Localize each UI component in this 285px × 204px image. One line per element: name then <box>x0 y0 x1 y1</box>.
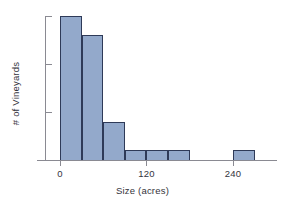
y-axis-tick <box>45 64 52 65</box>
x-axis-tick-label: 240 <box>213 169 253 179</box>
histogram-bar <box>103 122 125 160</box>
x-axis-tick-label: 120 <box>126 169 166 179</box>
histogram-bar <box>82 35 104 160</box>
x-axis-tick <box>60 160 61 166</box>
x-axis-title: Size (acres) <box>0 185 285 196</box>
y-axis-title: # of Vineyards <box>10 48 21 140</box>
y-axis-tick <box>45 112 52 113</box>
histogram-bar <box>168 150 190 160</box>
y-axis-tick <box>45 16 52 17</box>
histogram-bar <box>125 150 147 160</box>
histogram-bar <box>146 150 168 160</box>
histogram-bar <box>60 16 82 160</box>
histogram-bar <box>233 150 255 160</box>
x-axis-tick <box>146 160 147 166</box>
x-axis-tick <box>233 160 234 166</box>
x-axis-line <box>37 160 277 161</box>
x-axis-tick-label: 0 <box>40 169 80 179</box>
histogram-chart: 0120240 51015 Size (acres) # of Vineyard… <box>0 0 285 204</box>
y-axis-line <box>45 16 46 160</box>
plot-area: 0120240 51015 Size (acres) # of Vineyard… <box>0 0 285 204</box>
